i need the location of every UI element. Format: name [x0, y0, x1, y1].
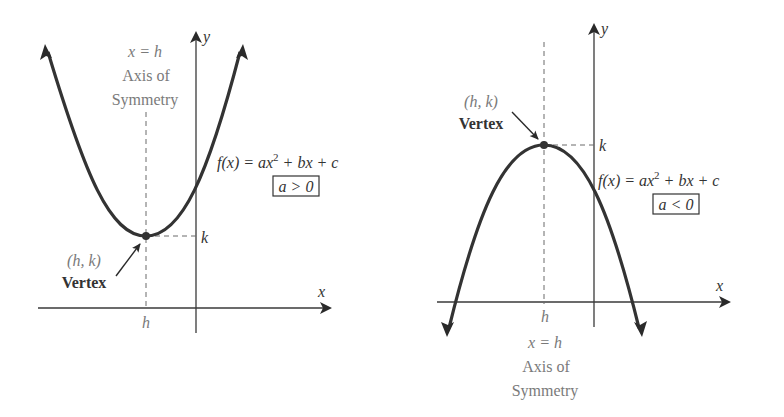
- h-tick-label: h: [142, 314, 150, 331]
- y-axis-label: y: [201, 28, 211, 46]
- condition-label: a > 0: [279, 178, 314, 195]
- vertex-point: [540, 141, 548, 149]
- vertex-point: [142, 232, 150, 240]
- vertex-label: Vertex: [62, 274, 107, 291]
- symmetry-title-line1: Axis of: [122, 67, 170, 84]
- y-axis-label: y: [599, 20, 609, 38]
- parabola-diagram: y x h k x = h Axis of Symmetry (h, k) Ve…: [0, 0, 784, 417]
- k-tick-label: k: [201, 229, 209, 246]
- curve-arrow-right-icon: [634, 321, 647, 337]
- condition-label: a < 0: [659, 196, 694, 213]
- right-graph: y x h k x = h Axis of Symmetry (h, k) Ve…: [437, 20, 729, 400]
- symmetry-title-line1: Axis of: [522, 358, 570, 375]
- k-tick-label: k: [599, 137, 607, 154]
- symmetry-equation: x = h: [127, 43, 162, 60]
- curve-arrow-left-icon: [441, 322, 454, 337]
- x-axis-label: x: [317, 283, 325, 300]
- h-tick-label: h: [541, 308, 549, 325]
- vertex-coordinates: (h, k): [67, 252, 101, 270]
- vertex-coordinates: (h, k): [464, 93, 498, 111]
- x-axis-label: x: [715, 277, 723, 294]
- vertex-pointer-arrow: [116, 244, 140, 276]
- symmetry-title-line2: Symmetry: [512, 382, 579, 400]
- symmetry-title-line2: Symmetry: [112, 91, 179, 109]
- left-graph: y x h k x = h Axis of Symmetry (h, k) Ve…: [38, 28, 338, 333]
- vertex-pointer-arrow: [512, 112, 538, 139]
- function-equation: f(x) = ax2 + bx + c: [217, 151, 338, 172]
- vertex-label: Vertex: [459, 115, 504, 132]
- function-equation: f(x) = ax2 + bx + c: [598, 169, 719, 190]
- symmetry-equation: x = h: [527, 334, 562, 351]
